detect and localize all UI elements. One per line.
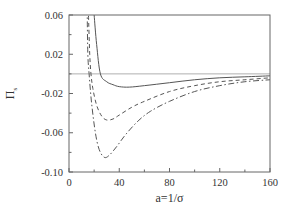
x-tick-label: 80 — [164, 177, 175, 188]
data-series — [87, 9, 270, 158]
series-solid — [94, 9, 270, 87]
y-axis-title: Πs — [3, 88, 19, 100]
y-tick-label: -0.02 — [41, 88, 63, 99]
y-tick-label: 0.02 — [45, 49, 63, 60]
y-tick-label: -0.06 — [41, 127, 63, 138]
y-tick-label: 0.06 — [45, 10, 63, 21]
y-axis: 0.060.02-0.02-0.06-0.10 — [41, 10, 73, 178]
y-axis-title-main: Π — [3, 90, 17, 99]
series-dash-dot — [87, 9, 270, 158]
y-tick-label: -0.10 — [41, 167, 63, 178]
x-tick-label: 40 — [114, 177, 125, 188]
line-chart: 04080120160 0.060.02-0.02-0.06-0.10 a=1/… — [0, 0, 292, 213]
svg-text:Πs: Πs — [3, 88, 19, 100]
y-axis-title-subscript: s — [11, 88, 19, 91]
x-tick-label: 160 — [262, 177, 278, 188]
x-tick-label: 0 — [66, 177, 71, 188]
x-axis-title: a=1/σ — [156, 191, 184, 205]
series-dashed — [88, 9, 270, 120]
x-axis: 04080120160 — [66, 168, 278, 188]
x-tick-label: 120 — [212, 177, 228, 188]
